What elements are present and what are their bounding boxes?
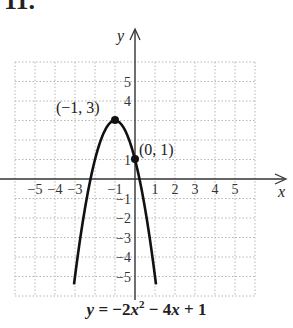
svg-text:−1: −1 — [116, 192, 131, 207]
x-axis-label: x — [277, 183, 285, 200]
vertex-label: (−1, 3) — [56, 99, 100, 117]
svg-text:3: 3 — [192, 182, 199, 197]
svg-text:−3: −3 — [116, 231, 131, 246]
svg-text:2: 2 — [172, 182, 179, 197]
svg-text:1: 1 — [152, 182, 159, 197]
svg-text:−4: −4 — [48, 182, 63, 197]
y-axis-label: y — [115, 27, 125, 45]
svg-text:−3: −3 — [68, 182, 83, 197]
intercept-label: (0, 1) — [139, 141, 174, 159]
svg-text:−2: −2 — [116, 211, 131, 226]
vertex-point — [111, 116, 119, 124]
parabola-graph: −5−4−3−112345541−1−2−3−4−5 (−1, 3) (0, 1… — [0, 0, 293, 328]
svg-text:1: 1 — [124, 153, 131, 168]
svg-text:5: 5 — [232, 182, 239, 197]
svg-text:−4: −4 — [116, 250, 131, 265]
svg-text:−5: −5 — [116, 270, 131, 285]
y-intercept-point — [131, 155, 139, 163]
svg-text:4: 4 — [212, 182, 219, 197]
equation-label: y = −2x2 − 4x + 1 — [0, 298, 293, 320]
svg-text:5: 5 — [124, 75, 131, 90]
svg-text:4: 4 — [124, 94, 131, 109]
svg-text:−5: −5 — [28, 182, 43, 197]
